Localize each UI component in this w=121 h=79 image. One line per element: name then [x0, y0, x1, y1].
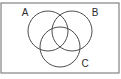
- venn-label-b: B: [92, 7, 99, 18]
- venn-diagram-figure: A B C: [0, 0, 121, 79]
- venn-label-a: A: [22, 7, 29, 18]
- venn-label-c: C: [81, 58, 88, 69]
- venn-diagram-canvas: A B C: [0, 0, 121, 79]
- diagram-frame-border: [1, 3, 119, 73]
